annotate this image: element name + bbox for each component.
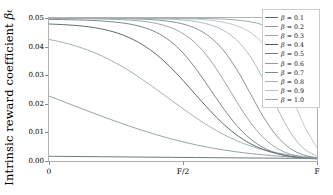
- legend-line-swatch: [265, 63, 278, 64]
- y-axis-label-subscript: t: [5, 9, 14, 12]
- x-tick-label: F/2: [177, 167, 190, 176]
- chart-figure: Intrinsic reward coefficient βt 0.000.01…: [0, 0, 333, 195]
- legend-label: β = 0.4: [281, 41, 304, 48]
- curve-0-1: [49, 156, 317, 158]
- legend-label: β = 0.2: [281, 23, 304, 30]
- legend-label: β = 0.1: [281, 14, 304, 21]
- legend: β = 0.1β = 0.2β = 0.3β = 0.4β = 0.5β = 0…: [262, 9, 320, 108]
- x-tick-label: 0: [47, 167, 52, 176]
- y-tick-label: 0.04: [18, 43, 44, 51]
- y-tick-label: 0.02: [18, 100, 44, 108]
- y-axis-label-symbol: β: [2, 13, 16, 20]
- x-tick-label: F: [314, 167, 319, 176]
- legend-line-swatch: [265, 26, 278, 27]
- legend-line-swatch: [265, 81, 278, 82]
- legend-item[interactable]: β = 0.6: [265, 58, 316, 67]
- legend-line-swatch: [265, 53, 278, 54]
- legend-line-swatch: [265, 72, 278, 73]
- legend-item[interactable]: β = 0.3: [265, 31, 316, 40]
- y-tick-label: 0.01: [18, 128, 44, 136]
- x-tick-mark: [183, 162, 184, 165]
- legend-line-swatch: [265, 44, 278, 45]
- legend-item[interactable]: β = 0.2: [265, 22, 316, 31]
- legend-label: β = 1.0: [281, 96, 304, 103]
- y-tick-label: 0.05: [18, 14, 44, 22]
- y-tick-label: 0.00: [18, 157, 44, 165]
- y-axis-label: Intrinsic reward coefficient βt: [0, 0, 18, 195]
- y-tick-label: 0.03: [18, 71, 44, 79]
- legend-label: β = 0.5: [281, 50, 304, 57]
- legend-label: β = 0.3: [281, 32, 304, 39]
- legend-label: β = 0.9: [281, 87, 304, 94]
- legend-item[interactable]: β = 0.8: [265, 77, 316, 86]
- legend-item[interactable]: β = 0.7: [265, 68, 316, 77]
- legend-line-swatch: [265, 90, 278, 91]
- legend-line-swatch: [265, 99, 278, 100]
- y-axis-label-text: Intrinsic reward coefficient: [2, 23, 16, 185]
- legend-label: β = 0.6: [281, 60, 304, 67]
- legend-item[interactable]: β = 0.4: [265, 40, 316, 49]
- legend-item[interactable]: β = 0.5: [265, 49, 316, 58]
- legend-label: β = 0.8: [281, 78, 304, 85]
- legend-item[interactable]: β = 0.1: [265, 13, 316, 22]
- legend-item[interactable]: β = 1.0: [265, 95, 316, 104]
- x-tick-mark: [317, 162, 318, 165]
- legend-line-swatch: [265, 35, 278, 36]
- legend-item[interactable]: β = 0.9: [265, 86, 316, 95]
- x-tick-mark: [49, 162, 50, 165]
- legend-label: β = 0.7: [281, 69, 304, 76]
- legend-line-swatch: [265, 17, 278, 18]
